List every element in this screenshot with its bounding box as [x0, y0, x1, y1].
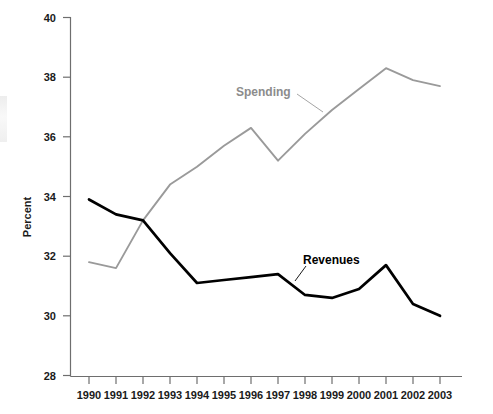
- y-tick-label-36: 36: [44, 131, 56, 143]
- series-label-spending: Spending: [236, 85, 291, 99]
- leader-line-spending: [297, 94, 323, 112]
- x-tick-label-1995: 1995: [212, 389, 236, 401]
- x-tick-label-1996: 1996: [239, 389, 263, 401]
- x-axis-tick-labels: 1990 1991 1992 1993 1994 1995 1996 1997 …: [77, 389, 452, 401]
- y-axis-tick-labels: 40 38 36 34 32 30 28: [44, 12, 57, 382]
- y-axis-ticks: [63, 18, 71, 376]
- x-tick-label-1991: 1991: [104, 389, 128, 401]
- x-tick-label-2000: 2000: [347, 389, 371, 401]
- y-tick-label-30: 30: [44, 310, 56, 322]
- x-tick-label-1997: 1997: [266, 389, 290, 401]
- x-tick-label-2002: 2002: [401, 389, 425, 401]
- y-tick-label-32: 32: [44, 250, 56, 262]
- x-tick-label-1998: 1998: [293, 389, 317, 401]
- chart-figure: 40 38 36 34 32 30 28 Percent: [0, 0, 493, 414]
- y-tick-label-28: 28: [44, 370, 56, 382]
- y-axis-title: Percent: [21, 196, 33, 237]
- page-edge-artifact: [0, 96, 7, 142]
- leader-line-revenues: [295, 266, 306, 281]
- x-tick-label-1992: 1992: [131, 389, 155, 401]
- series-label-revenues: Revenues: [303, 253, 360, 267]
- x-tick-label-1990: 1990: [77, 389, 101, 401]
- y-tick-label-40: 40: [44, 12, 56, 24]
- y-tick-label-34: 34: [44, 191, 57, 203]
- x-tick-label-1994: 1994: [185, 389, 210, 401]
- series-line-revenues: [89, 199, 440, 315]
- y-tick-label-38: 38: [44, 71, 56, 83]
- x-tick-label-2003: 2003: [428, 389, 452, 401]
- line-chart-canvas: 40 38 36 34 32 30 28 Percent: [0, 0, 493, 414]
- x-tick-label-1999: 1999: [320, 389, 344, 401]
- x-tick-label-2001: 2001: [374, 389, 398, 401]
- x-axis-ticks: [89, 377, 440, 385]
- x-tick-label-1993: 1993: [158, 389, 182, 401]
